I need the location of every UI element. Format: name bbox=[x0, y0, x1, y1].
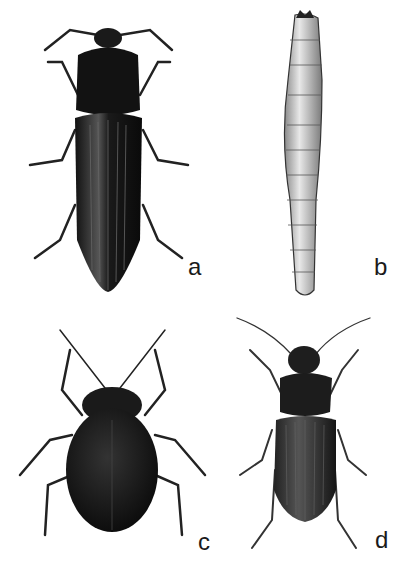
antenna-left bbox=[60, 330, 105, 388]
leg-front-right bbox=[145, 350, 165, 415]
leg-mid-right bbox=[143, 130, 188, 165]
leg-front-left bbox=[48, 62, 78, 95]
pronotum bbox=[76, 48, 140, 116]
antenna-left bbox=[237, 318, 292, 355]
leg-mid-left bbox=[30, 130, 75, 165]
head bbox=[94, 28, 122, 48]
panel-label-d: d bbox=[375, 528, 388, 552]
leg-mid-right bbox=[155, 435, 205, 475]
panel-label-b: b bbox=[374, 255, 387, 279]
leg-front-right bbox=[330, 350, 358, 395]
panel-d-ground-beetle bbox=[237, 318, 370, 548]
leg-mid-left bbox=[240, 430, 272, 475]
pronotum bbox=[280, 373, 332, 416]
panel-a-click-beetle bbox=[30, 28, 188, 292]
panel-c-leaf-beetle bbox=[20, 330, 205, 535]
panel-label-c: c bbox=[198, 530, 210, 554]
leg-hind-left bbox=[252, 470, 275, 548]
leg-mid-right bbox=[338, 430, 366, 475]
head bbox=[288, 346, 320, 374]
leg-mid-left bbox=[20, 435, 72, 475]
leg-front-left bbox=[62, 350, 82, 415]
panel-label-a: a bbox=[188, 255, 201, 279]
antenna-right bbox=[120, 30, 172, 50]
leg-hind-right bbox=[335, 470, 356, 548]
leg-front-right bbox=[140, 62, 170, 95]
leg-hind-right bbox=[143, 205, 182, 258]
antenna-right bbox=[315, 318, 370, 355]
beetle-plate bbox=[0, 0, 407, 570]
leg-hind-right bbox=[155, 475, 182, 535]
antenna-left bbox=[45, 30, 98, 50]
panel-b-larva bbox=[284, 10, 322, 295]
leg-hind-left bbox=[35, 205, 75, 258]
elytra bbox=[75, 113, 142, 292]
larva-body bbox=[284, 14, 322, 295]
leg-front-left bbox=[250, 350, 282, 395]
